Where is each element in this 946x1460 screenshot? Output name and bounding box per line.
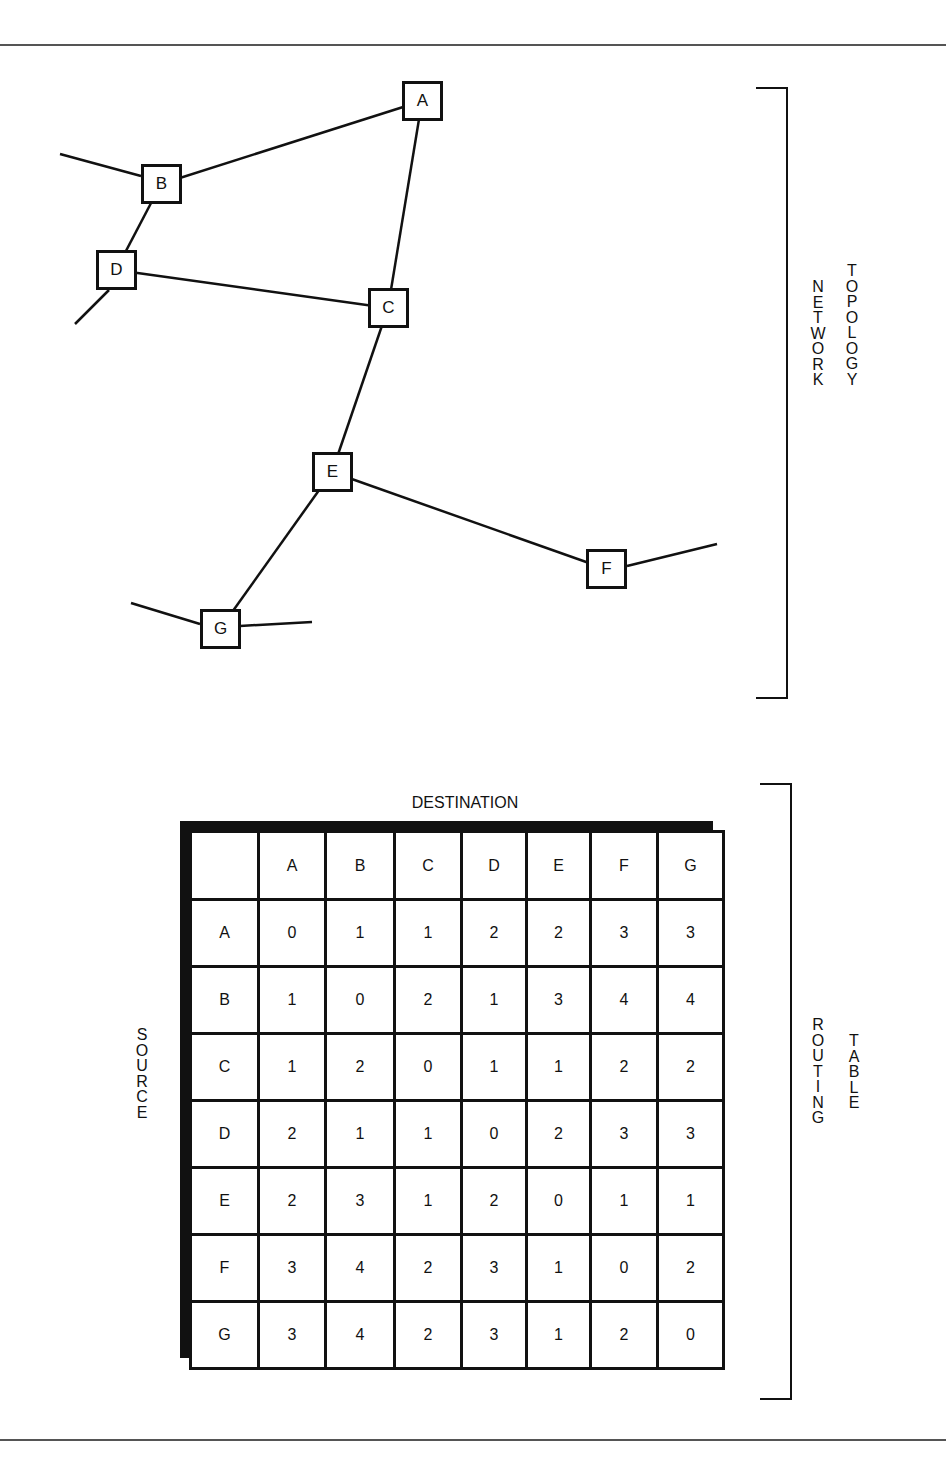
- column-header: E: [527, 832, 591, 900]
- hop-cell: 1: [527, 1034, 591, 1101]
- hop-cell: 2: [591, 1034, 658, 1101]
- hop-cell: 2: [591, 1302, 658, 1369]
- hop-cell: 2: [395, 1302, 462, 1369]
- node-f: F: [586, 549, 627, 589]
- hop-cell: 3: [462, 1235, 527, 1302]
- hop-cell: 1: [527, 1235, 591, 1302]
- hop-cell: 1: [462, 1034, 527, 1101]
- topology-links: [0, 0, 946, 720]
- column-header: A: [259, 832, 326, 900]
- hop-cell: 1: [395, 900, 462, 967]
- column-header: F: [591, 832, 658, 900]
- hop-cell: 3: [658, 1101, 724, 1168]
- hop-cell: 2: [527, 1101, 591, 1168]
- hop-cell: 1: [259, 1034, 326, 1101]
- column-header: B: [326, 832, 395, 900]
- node-label: D: [110, 260, 122, 280]
- row-header: C: [191, 1034, 259, 1101]
- hop-cell: 1: [591, 1168, 658, 1235]
- hop-cell: 1: [395, 1101, 462, 1168]
- hop-cell: 2: [395, 967, 462, 1034]
- routing-label-routing: ROUTING: [809, 1017, 827, 1126]
- hop-cell: 1: [259, 967, 326, 1034]
- hop-cell: 4: [326, 1302, 395, 1369]
- node-label: C: [382, 298, 394, 318]
- source-label: SOURCE: [133, 1027, 151, 1120]
- table-row: G 3 4 2 3 1 2 0: [191, 1302, 724, 1369]
- destination-label: DESTINATION: [380, 794, 550, 812]
- hop-cell: 1: [326, 1101, 395, 1168]
- hop-cell: 4: [658, 967, 724, 1034]
- hop-cell: 3: [462, 1302, 527, 1369]
- hop-cell: 2: [259, 1168, 326, 1235]
- column-header: C: [395, 832, 462, 900]
- hop-cell: 3: [527, 967, 591, 1034]
- hop-cell: 2: [462, 900, 527, 967]
- hop-cell: 2: [326, 1034, 395, 1101]
- node-a: A: [402, 81, 443, 121]
- node-label: G: [214, 619, 227, 639]
- row-header: A: [191, 900, 259, 967]
- hop-cell: 0: [591, 1235, 658, 1302]
- hop-cell: 4: [591, 967, 658, 1034]
- hop-cell: 3: [326, 1168, 395, 1235]
- hop-cell: 1: [462, 967, 527, 1034]
- routing-bracket: [760, 783, 792, 1400]
- hop-cell: 4: [326, 1235, 395, 1302]
- row-header: D: [191, 1101, 259, 1168]
- hop-cell: 3: [259, 1302, 326, 1369]
- hop-cell: 0: [326, 967, 395, 1034]
- hop-cell: 0: [259, 900, 326, 967]
- node-label: B: [156, 174, 167, 194]
- hop-cell: 2: [462, 1168, 527, 1235]
- table-row: E 2 3 1 2 0 1 1: [191, 1168, 724, 1235]
- corner-cell: [191, 832, 259, 900]
- hop-cell: 1: [326, 900, 395, 967]
- node-c: C: [368, 288, 409, 328]
- topology-label-topology: TOPOLOGY: [843, 263, 861, 387]
- routing-label-table: TABLE: [845, 1033, 863, 1111]
- hop-cell: 0: [395, 1034, 462, 1101]
- hop-cell: 1: [658, 1168, 724, 1235]
- topology-label-network: NETWORK: [809, 279, 827, 388]
- hop-cell: 3: [658, 900, 724, 967]
- hop-cell: 2: [259, 1101, 326, 1168]
- hop-cell: 1: [395, 1168, 462, 1235]
- row-header: B: [191, 967, 259, 1034]
- table-row: D 2 1 1 0 2 3 3: [191, 1101, 724, 1168]
- node-b: B: [141, 164, 182, 204]
- hop-cell: 0: [658, 1302, 724, 1369]
- row-header: E: [191, 1168, 259, 1235]
- column-header: G: [658, 832, 724, 900]
- table-row: F 3 4 2 3 1 0 2: [191, 1235, 724, 1302]
- routing-table: A B C D E F G A 0 1 1 2 2 3 3 B 1 0 2 1 …: [189, 830, 725, 1370]
- table-row: A 0 1 1 2 2 3 3: [191, 900, 724, 967]
- hop-cell: 3: [259, 1235, 326, 1302]
- node-e: E: [312, 452, 353, 492]
- table-row: C 1 2 0 1 1 2 2: [191, 1034, 724, 1101]
- bottom-rule: [0, 1439, 946, 1441]
- node-label: E: [327, 462, 338, 482]
- hop-cell: 3: [591, 900, 658, 967]
- node-label: F: [601, 559, 611, 579]
- hop-cell: 3: [591, 1101, 658, 1168]
- row-header: F: [191, 1235, 259, 1302]
- hop-cell: 2: [658, 1034, 724, 1101]
- table-row: B 1 0 2 1 3 4 4: [191, 967, 724, 1034]
- node-d: D: [96, 250, 137, 290]
- column-header: D: [462, 832, 527, 900]
- hop-cell: 2: [527, 900, 591, 967]
- hop-cell: 0: [527, 1168, 591, 1235]
- row-header: G: [191, 1302, 259, 1369]
- node-label: A: [417, 91, 428, 111]
- hop-cell: 2: [395, 1235, 462, 1302]
- topology-bracket: [756, 87, 788, 699]
- hop-cell: 2: [658, 1235, 724, 1302]
- node-g: G: [200, 609, 241, 649]
- header-row: A B C D E F G: [191, 832, 724, 900]
- hop-cell: 1: [527, 1302, 591, 1369]
- hop-cell: 0: [462, 1101, 527, 1168]
